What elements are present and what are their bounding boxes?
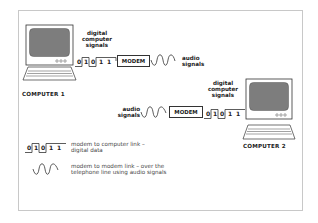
label-line: signals	[112, 112, 140, 118]
label-line: signals	[78, 42, 116, 48]
legend-audio-text: modem to modem link – over the telephone…	[71, 163, 166, 176]
computer-2-label: COMPUTER 2	[243, 143, 286, 149]
bit: 1	[228, 110, 232, 117]
legend-line: telephone line using audio signals	[71, 169, 166, 175]
legend-audio-wave-icon	[33, 164, 58, 175]
legend-bits: 0 1 0 1 1	[26, 144, 66, 152]
bit: 0	[206, 110, 210, 117]
legend-line: digital data	[71, 147, 145, 153]
bit: 0	[77, 58, 81, 65]
bit: 0	[41, 144, 45, 151]
bits-row-2: 0 1 0 1 1	[205, 110, 245, 118]
label-line: signals	[204, 92, 242, 98]
computer-1-label: COMPUTER 1	[22, 91, 65, 97]
bit: 0	[27, 144, 31, 151]
computer-1-icon	[23, 25, 76, 80]
computer-2-icon	[243, 79, 295, 139]
audio-signals-label-1: audio signals	[182, 55, 212, 67]
modem-2-box: MODEM	[169, 106, 203, 118]
audio-signals-label-2: audio signals	[112, 106, 140, 118]
bit: 1	[84, 58, 88, 65]
bits-row-1: 0 1 0 1 1	[76, 58, 116, 66]
bit: 0	[91, 58, 95, 65]
legend-digital-text: modem to computer link – digital data	[71, 141, 145, 154]
bit: 1	[107, 58, 111, 65]
bit: 1	[213, 110, 217, 117]
label-line: signals	[182, 61, 212, 67]
diagram-graphics	[0, 0, 318, 223]
audio-wave-2-icon	[141, 107, 166, 118]
digital-signals-label-2: digital computer signals	[204, 80, 242, 99]
bit: 1	[49, 144, 53, 151]
bit: 1	[57, 144, 61, 151]
modem-1-box: MODEM	[117, 55, 150, 67]
audio-wave-1-icon	[151, 55, 175, 66]
bit: 1	[34, 144, 38, 151]
bit: 1	[236, 110, 240, 117]
bit: 1	[99, 58, 103, 65]
digital-signals-label-1: digital computer signals	[78, 30, 116, 49]
bit: 0	[220, 110, 224, 117]
